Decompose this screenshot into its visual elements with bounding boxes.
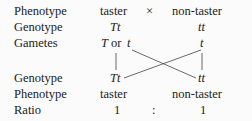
offspring1-phenotype: taster xyxy=(100,87,127,101)
offspring2-phenotype: non-taster xyxy=(172,87,222,101)
ratio-right: 1 xyxy=(200,103,206,117)
ratio-label: Ratio xyxy=(14,103,41,117)
parent2-phenotype: non-taster xyxy=(172,4,222,18)
phenotype-label: Phenotype xyxy=(14,4,67,18)
offspring-genotype-label: Genotype xyxy=(14,71,63,85)
gamete-t-right: t xyxy=(200,36,203,50)
gamete-T: T xyxy=(101,36,108,50)
offspring2-genotype: tt xyxy=(198,71,205,85)
cross-symbol: × xyxy=(146,4,153,18)
parent1-genotype: Tt xyxy=(110,20,120,34)
offspring-phenotype-label: Phenotype xyxy=(14,87,67,101)
ratio-separator: : xyxy=(152,103,155,117)
parent2-genotype: tt xyxy=(198,20,205,34)
offspring1-genotype: Tt xyxy=(110,71,120,85)
ratio-left: 1 xyxy=(114,103,120,117)
gametes-label: Gametes xyxy=(14,36,58,50)
parent1-phenotype: taster xyxy=(100,4,127,18)
gamete-or: or xyxy=(111,36,121,50)
gamete-t-left: t xyxy=(127,36,130,50)
genotype-label: Genotype xyxy=(14,20,63,34)
